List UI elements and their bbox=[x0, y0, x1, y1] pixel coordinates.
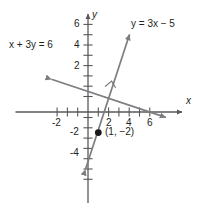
coordinate-plane-svg bbox=[0, 0, 205, 209]
y-tick-label-4: 4 bbox=[74, 40, 80, 50]
y-tick-label-6: 6 bbox=[74, 19, 80, 29]
line-label-x-plus-3y-equals-6: x + 3y = 6 bbox=[9, 40, 53, 50]
y-axis-label: y bbox=[92, 10, 97, 20]
data-point-label: (1, −2) bbox=[105, 127, 134, 137]
y-axis bbox=[83, 14, 92, 203]
x-axis-label: x bbox=[186, 96, 191, 106]
y-tick-label-2: 2 bbox=[74, 61, 80, 71]
line-y-equals-3x-minus-5 bbox=[85, 34, 129, 169]
graph-figure: -2 2 4 6 6 4 2 -2 -4 x y y = 3x − 5 x + … bbox=[0, 0, 205, 209]
y-tick-label--2: -2 bbox=[70, 127, 79, 137]
data-point-marker bbox=[95, 129, 102, 136]
line-label-y-equals-3x-minus-5: y = 3x − 5 bbox=[131, 19, 175, 29]
x-tick-label-6: 6 bbox=[147, 118, 153, 128]
x-tick-label--2: -2 bbox=[52, 118, 61, 128]
y-tick-label--4: -4 bbox=[70, 148, 79, 158]
